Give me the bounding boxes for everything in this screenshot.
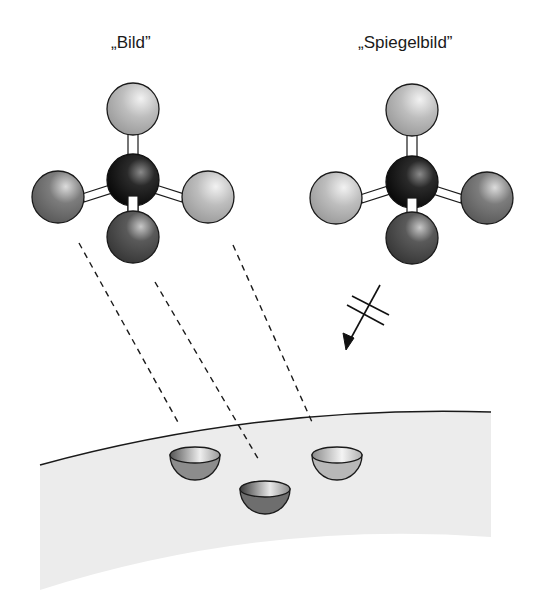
- crossed-arrow-icon: [343, 285, 389, 350]
- image-molecule: [32, 83, 234, 263]
- dashed-line-left: [79, 243, 179, 424]
- substituent-right: [182, 171, 234, 223]
- substituent-top: [107, 83, 159, 135]
- substituent-bottom: [107, 211, 159, 263]
- dashed-line-right: [233, 245, 312, 422]
- substituent-left: [310, 172, 362, 224]
- substituent-top: [386, 84, 438, 136]
- chirality-diagram: [0, 0, 534, 613]
- substituent-left: [32, 171, 84, 223]
- substituent-bottom: [386, 212, 438, 264]
- substituent-right: [461, 172, 513, 224]
- mirror-image-molecule: [310, 84, 513, 264]
